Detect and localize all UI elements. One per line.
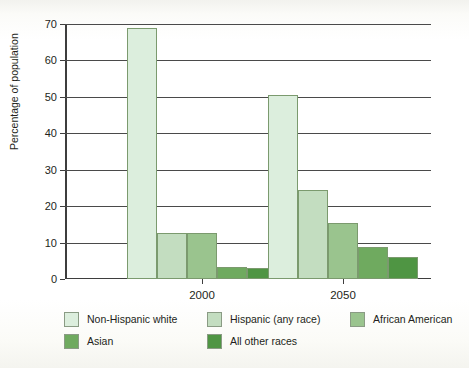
legend-label: African American	[373, 313, 452, 325]
bar	[157, 233, 187, 279]
legend-swatch-icon	[350, 312, 365, 327]
gridline	[65, 206, 431, 207]
bar	[187, 233, 217, 279]
bar	[217, 267, 247, 279]
legend-item-asian: Asian	[64, 334, 207, 349]
legend-item-african-american: African American	[350, 312, 452, 327]
bar	[127, 28, 157, 279]
bar	[358, 247, 388, 279]
y-tick-label: 40	[45, 127, 57, 139]
y-tick-mark	[60, 243, 65, 244]
legend-label: Asian	[87, 335, 113, 347]
x-tick-mark	[202, 279, 203, 284]
gridline	[65, 60, 431, 61]
legend-swatch-icon	[64, 312, 79, 327]
bar-chart-figure: Percentage of population 010203040506070…	[0, 0, 469, 368]
gridline	[65, 243, 431, 244]
y-tick-label: 70	[45, 18, 57, 30]
plot-area: 010203040506070 20002050	[65, 24, 431, 279]
y-tick-label: 50	[45, 91, 57, 103]
y-tick-mark	[60, 206, 65, 207]
legend-label: All other races	[230, 335, 297, 347]
y-tick-mark	[60, 170, 65, 171]
y-tick-mark	[60, 279, 65, 280]
gridline	[65, 170, 431, 171]
legend-row-2: Asian All other races	[64, 330, 454, 352]
y-tick-mark	[60, 97, 65, 98]
bar	[298, 190, 328, 279]
y-tick-label: 10	[45, 237, 57, 249]
x-tick-label: 2000	[189, 289, 215, 301]
bar	[268, 95, 298, 279]
x-tick-label: 2050	[330, 289, 356, 301]
legend-label: Hispanic (any race)	[230, 313, 320, 325]
legend-swatch-icon	[207, 312, 222, 327]
gridline	[65, 133, 431, 134]
y-tick-label: 30	[45, 164, 57, 176]
legend-item-hispanic-any-race: Hispanic (any race)	[207, 312, 350, 327]
y-tick-mark	[60, 24, 65, 25]
legend-label: Non-Hispanic white	[87, 313, 177, 325]
legend-row-1: Non-Hispanic white Hispanic (any race) A…	[64, 308, 454, 330]
y-tick-mark	[60, 60, 65, 61]
bar	[328, 223, 358, 279]
legend-swatch-icon	[64, 334, 79, 349]
y-tick-label: 0	[51, 273, 57, 285]
legend-item-all-other-races: All other races	[207, 334, 350, 349]
bar	[388, 257, 418, 279]
legend-swatch-icon	[207, 334, 222, 349]
y-tick-mark	[60, 133, 65, 134]
y-tick-label: 60	[45, 54, 57, 66]
gridline	[65, 97, 431, 98]
y-tick-label: 20	[45, 200, 57, 212]
y-axis-line	[65, 24, 67, 279]
chart-legend: Non-Hispanic white Hispanic (any race) A…	[64, 308, 454, 352]
gridline	[65, 24, 431, 25]
y-axis-title: Percentage of population	[8, 33, 20, 150]
x-tick-mark	[343, 279, 344, 284]
chart-page: Percentage of population 010203040506070…	[0, 0, 469, 368]
legend-item-non-hispanic-white: Non-Hispanic white	[64, 312, 207, 327]
